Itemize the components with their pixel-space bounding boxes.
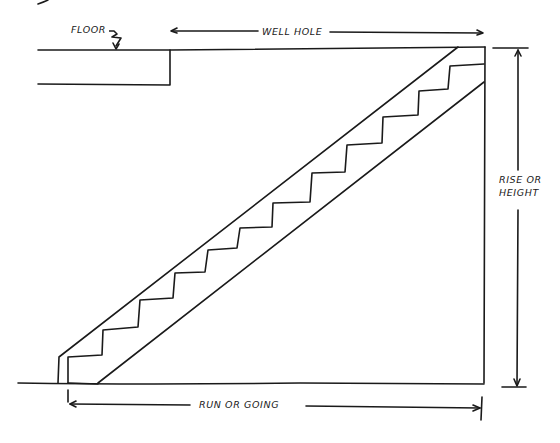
outer-string-bottom xyxy=(98,82,484,383)
run-dim-right xyxy=(306,406,480,408)
pen-mark xyxy=(38,0,48,4)
stair-foot xyxy=(68,383,98,384)
floor-label: FLOOR xyxy=(68,24,109,35)
well-hole-dim-right xyxy=(330,32,482,33)
rise-label-line2: HEIGHT xyxy=(496,187,542,198)
rise-label-line1: RISE OR xyxy=(496,174,545,185)
stair-steps xyxy=(68,64,484,383)
run-dim-left xyxy=(70,404,190,405)
run-extension-right xyxy=(481,397,482,420)
outer-string-top xyxy=(58,47,458,383)
well-hole-label: WELL HOLE xyxy=(259,26,325,37)
floor-slab-edge xyxy=(38,50,170,85)
back-wall-line xyxy=(484,47,485,383)
rise-dim-lower xyxy=(517,210,518,385)
run-label: RUN OR GOING xyxy=(196,399,282,410)
staircase-diagram xyxy=(0,0,560,443)
upper-floor-line xyxy=(38,47,485,50)
